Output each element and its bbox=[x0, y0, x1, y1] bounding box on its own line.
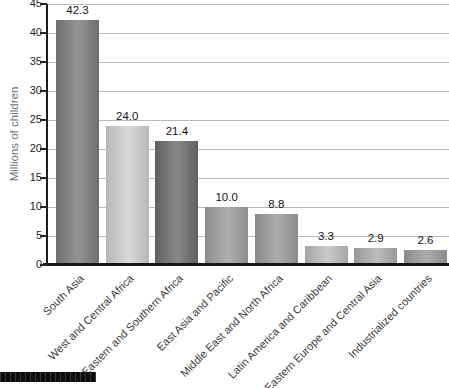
x-axis-baseline bbox=[43, 263, 449, 266]
bar-chart-figure: Millions of children 0510152025303540454… bbox=[0, 0, 449, 388]
category-label-5: Latin America and Caribbean bbox=[226, 272, 335, 381]
gridline-40 bbox=[47, 33, 449, 34]
category-label-1: West and Central Africa bbox=[46, 272, 136, 362]
bar-value-label-7: 2.6 bbox=[400, 234, 449, 246]
y-axis-line bbox=[46, 4, 48, 265]
y-tick-label-40: 40 bbox=[16, 26, 42, 38]
bar-value-label-2: 21.4 bbox=[152, 125, 202, 137]
gridline-30 bbox=[47, 91, 449, 92]
y-tick-label-10: 10 bbox=[16, 200, 42, 212]
y-tick-label-30: 30 bbox=[16, 84, 42, 96]
y-tick-label-15: 15 bbox=[16, 171, 42, 183]
category-label-4: Middle East and North Africa bbox=[178, 272, 285, 379]
bar-4 bbox=[255, 214, 298, 265]
gridline-35 bbox=[47, 62, 449, 63]
gridline-45 bbox=[47, 4, 449, 5]
category-label-2: Eastern and Southern Africa bbox=[80, 272, 186, 378]
y-tick-label-0: 0 bbox=[16, 258, 42, 270]
bar-value-label-3: 10.0 bbox=[202, 191, 252, 203]
bar-value-label-6: 2.9 bbox=[351, 232, 401, 244]
y-tick-label-25: 25 bbox=[16, 113, 42, 125]
bar-value-label-1: 24.0 bbox=[102, 110, 152, 122]
bar-value-label-0: 42.3 bbox=[53, 4, 103, 16]
category-label-0: South Asia bbox=[40, 272, 86, 318]
footer-strip bbox=[0, 372, 96, 382]
bar-0 bbox=[56, 20, 99, 265]
bar-3 bbox=[205, 207, 248, 265]
bar-value-label-4: 8.8 bbox=[251, 198, 301, 210]
bar-2 bbox=[155, 141, 198, 265]
y-tick-label-35: 35 bbox=[16, 55, 42, 67]
bar-1 bbox=[106, 126, 149, 265]
y-tick-label-45: 45 bbox=[16, 0, 42, 9]
bar-value-label-5: 3.3 bbox=[301, 230, 351, 242]
y-tick-label-5: 5 bbox=[16, 229, 42, 241]
y-tick-label-20: 20 bbox=[16, 142, 42, 154]
category-label-7: Industrialized countries bbox=[346, 272, 434, 360]
